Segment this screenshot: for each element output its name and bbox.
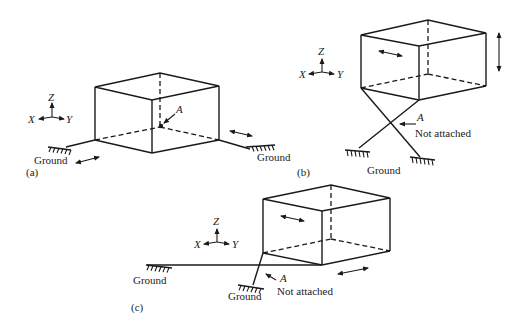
panel-a-label: (a) bbox=[26, 166, 39, 179]
ground-hatch-left-icon bbox=[146, 265, 172, 273]
not-attached-label: Not attached bbox=[415, 127, 471, 139]
point-a-label: A bbox=[279, 272, 287, 284]
point-a-arrow bbox=[266, 274, 276, 280]
axes-triad-icon: Z X Y bbox=[193, 215, 240, 250]
ground-label: Ground bbox=[367, 164, 401, 176]
point-a-label: A bbox=[175, 103, 183, 115]
point-a-label: A bbox=[416, 111, 424, 123]
axis-y-label: Y bbox=[66, 113, 74, 125]
ground-link-right bbox=[219, 140, 250, 149]
motion-arrow-horizontal bbox=[379, 51, 402, 56]
motion-arrow-bottom bbox=[338, 268, 368, 274]
cube-a bbox=[95, 73, 219, 153]
ground-link-left bbox=[66, 140, 95, 147]
ground-label-left: Ground bbox=[34, 154, 68, 166]
motion-arrow-right bbox=[230, 131, 252, 136]
diagram-canvas: Z X Y A Ground (a) bbox=[0, 0, 523, 327]
axes-triad-icon: Z X Y bbox=[298, 45, 345, 80]
cube-b bbox=[361, 20, 486, 100]
panel-c-label: (c) bbox=[131, 301, 144, 314]
axis-z-label: Z bbox=[48, 91, 55, 103]
axis-y-label: Y bbox=[232, 238, 240, 250]
panel-b: Z X Y A Not attache bbox=[297, 20, 499, 179]
leg-short bbox=[253, 253, 263, 285]
panel-b-label: (b) bbox=[297, 166, 310, 179]
ground-label-left: Ground bbox=[133, 274, 167, 286]
ground-label-right: Ground bbox=[228, 290, 262, 302]
axis-x-label: X bbox=[27, 113, 36, 125]
cube-c bbox=[263, 185, 390, 265]
ground-label-right: Ground bbox=[257, 151, 291, 163]
axis-x-label: X bbox=[298, 68, 307, 80]
point-a-arrow bbox=[164, 114, 175, 123]
axis-x-label: X bbox=[193, 238, 202, 250]
ground-hatch-left-icon bbox=[345, 150, 370, 158]
axes-triad-icon: Z X Y bbox=[27, 91, 74, 125]
panel-c: Z X Y Ground Ground bbox=[131, 185, 390, 314]
not-attached-label: Not attached bbox=[277, 285, 333, 297]
motion-arrow-horizontal bbox=[281, 216, 304, 221]
panel-a: Z X Y A Ground (a) bbox=[26, 73, 291, 179]
axis-z-label: Z bbox=[213, 215, 220, 227]
point-a-marker bbox=[159, 124, 163, 128]
axis-y-label: Y bbox=[337, 68, 345, 80]
axis-z-label: Z bbox=[318, 45, 325, 57]
ground-hatch-right-icon bbox=[410, 157, 435, 166]
motion-arrow-left bbox=[76, 157, 99, 163]
